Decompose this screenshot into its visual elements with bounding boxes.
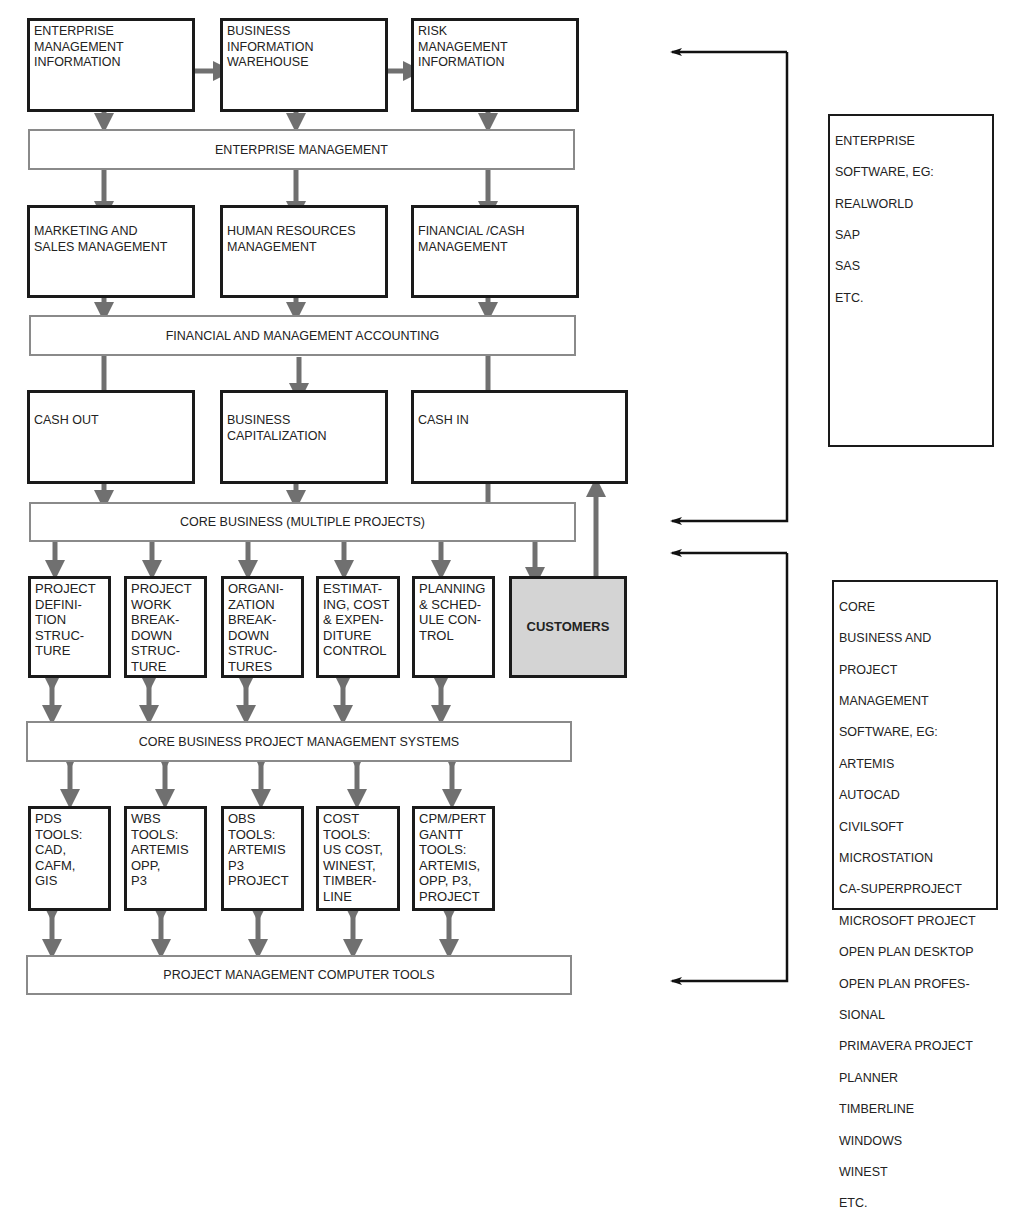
- cpm-pert-gantt-tools-box: CPM/PERT GANTT TOOLS: ARTEMIS, OPP, P3, …: [412, 806, 495, 911]
- pm-computer-tools-band: PROJECT MANAGEMENT COMPUTER TOOLS: [26, 955, 572, 995]
- organization-breakdown-structures-box: ORGANI- ZATION BREAK- DOWN STRUC- TURES: [221, 576, 304, 678]
- core-business-pm-systems-band: CORE BUSINESS PROJECT MANAGEMENT SYSTEMS: [26, 721, 572, 762]
- software-line: REALWORLD: [835, 197, 987, 213]
- software-line: BUSINESS AND: [839, 631, 991, 647]
- software-line: MICROSTATION: [839, 851, 991, 867]
- wbs-tools-box: WBS TOOLS: ARTEMIS OPP, P3: [124, 806, 207, 911]
- cash-out-box: CASH OUT: [27, 390, 195, 484]
- software-line: MICROSOFT PROJECT: [839, 914, 991, 930]
- financial-management-accounting-label: FINANCIAL AND MANAGEMENT ACCOUNTING: [166, 329, 440, 343]
- enterprise-management-band: ENTERPRISE MANAGEMENT: [28, 129, 575, 170]
- financial-management-accounting-band: FINANCIAL AND MANAGEMENT ACCOUNTING: [29, 315, 576, 356]
- business-information-warehouse-box: BUSINESS INFORMATION WAREHOUSE: [220, 18, 388, 112]
- software-line: PROJECT: [839, 663, 991, 679]
- estimating-cost-expenditure-control-box: ESTIMAT- ING, COST & EXPEN- DITURE CONTR…: [316, 576, 400, 678]
- software-line: ETC.: [835, 291, 987, 307]
- customers-label: CUSTOMERS: [527, 619, 610, 635]
- core-bracket: [672, 553, 787, 981]
- financial-cash-management-box: FINANCIAL /CASH MANAGEMENT: [411, 205, 579, 298]
- risk-management-information-box: RISK MANAGEMENT INFORMATION: [411, 18, 579, 112]
- cost-tools-box: COST TOOLS: US COST, WINEST, TIMBER- LIN…: [316, 806, 400, 911]
- planning-schedule-control-box: PLANNING & SCHED- ULE CON- TROL: [412, 576, 495, 678]
- software-line: OPEN PLAN PROFES-: [839, 977, 991, 993]
- obs-tools-box: OBS TOOLS: ARTEMIS P3 PROJECT: [221, 806, 304, 911]
- software-line: PRIMAVERA PROJECT: [839, 1039, 991, 1055]
- software-line: SOFTWARE, EG:: [839, 725, 991, 741]
- software-line: AUTOCAD: [839, 788, 991, 804]
- business-capitalization-box: BUSINESS CAPITALIZATION: [220, 390, 388, 484]
- software-line: ETC.: [839, 1196, 991, 1211]
- software-line: SIONAL: [839, 1008, 991, 1024]
- cash-in-box: CASH IN: [411, 390, 628, 484]
- enterprise-bracket: [672, 52, 787, 521]
- enterprise-management-label: ENTERPRISE MANAGEMENT: [215, 143, 388, 157]
- software-line: ENTERPRISE: [835, 134, 987, 150]
- software-line: CIVILSOFT: [839, 820, 991, 836]
- enterprise-management-information-box: ENTERPRISE MANAGEMENT INFORMATION: [27, 18, 195, 112]
- core-business-band: CORE BUSINESS (MULTIPLE PROJECTS): [29, 502, 576, 542]
- project-definition-structure-box: PROJECT DEFINI- TION STRUC- TURE: [28, 576, 111, 678]
- software-line: WINDOWS: [839, 1134, 991, 1150]
- pm-computer-tools-label: PROJECT MANAGEMENT COMPUTER TOOLS: [163, 968, 434, 982]
- marketing-sales-management-box: MARKETING AND SALES MANAGEMENT: [27, 205, 195, 298]
- software-line: CORE: [839, 600, 991, 616]
- software-line: SAS: [835, 259, 987, 275]
- software-line: ARTEMIS: [839, 757, 991, 773]
- software-line: MANAGEMENT: [839, 694, 991, 710]
- software-line: PLANNER: [839, 1071, 991, 1087]
- software-line: OPEN PLAN DESKTOP: [839, 945, 991, 961]
- software-line: CA-SUPERPROJECT: [839, 882, 991, 898]
- project-work-breakdown-structure-box: PROJECT WORK BREAK- DOWN STRUC- TURE: [124, 576, 207, 678]
- pds-tools-box: PDS TOOLS: CAD, CAFM, GIS: [28, 806, 111, 911]
- software-line: SAP: [835, 228, 987, 244]
- enterprise-software-box: ENTERPRISE SOFTWARE, EG: REALWORLD SAP S…: [828, 114, 994, 447]
- core-business-label: CORE BUSINESS (MULTIPLE PROJECTS): [180, 515, 425, 529]
- software-line: WINEST: [839, 1165, 991, 1181]
- software-line: TIMBERLINE: [839, 1102, 991, 1118]
- software-line: SOFTWARE, EG:: [835, 165, 987, 181]
- core-business-pm-systems-label: CORE BUSINESS PROJECT MANAGEMENT SYSTEMS: [139, 735, 459, 749]
- customers-box: CUSTOMERS: [509, 576, 627, 678]
- core-business-software-box: CORE BUSINESS AND PROJECT MANAGEMENT SOF…: [832, 580, 998, 910]
- human-resources-management-box: HUMAN RESOURCES MANAGEMENT: [220, 205, 388, 298]
